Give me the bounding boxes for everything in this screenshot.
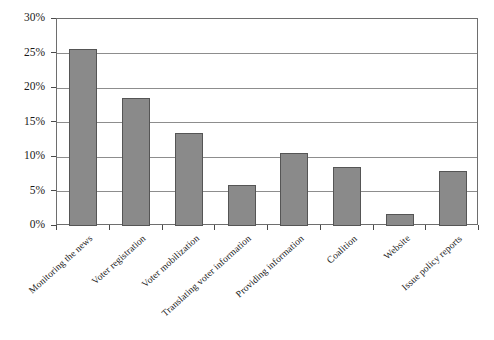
x-axis-tick (478, 225, 479, 230)
bar (69, 49, 97, 226)
grid-line (57, 53, 477, 54)
bar-chart: 0%5%10%15%20%25%30% Monitoring the newsV… (0, 0, 494, 340)
grid-line (57, 157, 477, 158)
x-axis-label: Coalition (325, 233, 359, 265)
x-axis-label: Voter registration (90, 233, 148, 286)
y-axis-tick-label: 20% (0, 81, 45, 93)
plot-area (56, 18, 478, 225)
x-axis-tick (373, 225, 374, 230)
bar (228, 185, 256, 226)
y-axis-tick-label: 30% (0, 12, 45, 24)
y-axis-tick-label: 0% (0, 219, 45, 231)
x-axis-label: Monitoring the news (27, 233, 95, 295)
bar (386, 214, 414, 226)
grid-line (57, 88, 477, 89)
y-axis-tick-label: 25% (0, 47, 45, 59)
x-axis-tick (162, 225, 163, 230)
grid-line (57, 191, 477, 192)
x-axis-tick (109, 225, 110, 230)
bar (439, 171, 467, 226)
grid-line (57, 122, 477, 123)
bar (175, 133, 203, 226)
x-axis-tick (320, 225, 321, 230)
x-axis-label: Translating voter information (160, 233, 253, 318)
y-axis-tick-label: 10% (0, 150, 45, 162)
bar (280, 153, 308, 226)
bar (333, 167, 361, 226)
y-axis-tick-label: 15% (0, 116, 45, 128)
x-axis-label: Website (382, 233, 412, 261)
bar (122, 98, 150, 226)
x-axis-tick (267, 225, 268, 230)
x-axis-tick (56, 225, 57, 230)
x-axis-tick (425, 225, 426, 230)
y-axis-tick-label: 5% (0, 185, 45, 197)
x-axis-tick (214, 225, 215, 230)
